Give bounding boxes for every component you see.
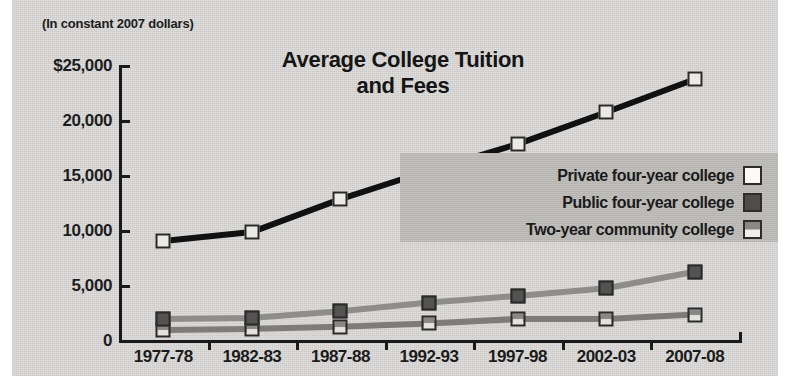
legend-item: Two-year community college — [526, 220, 762, 239]
data-point-marker — [156, 312, 171, 327]
legend-item-label: Two-year community college — [526, 221, 734, 239]
data-point-marker — [422, 316, 437, 331]
legend-item: Public four-year college — [562, 193, 762, 212]
data-point-marker — [244, 310, 259, 325]
data-point-marker — [333, 304, 348, 319]
data-point-marker — [599, 105, 614, 120]
data-point-marker — [687, 307, 702, 322]
data-point-marker — [333, 192, 348, 207]
legend-item-label: Private four-year college — [557, 167, 734, 185]
data-point-marker — [422, 295, 437, 310]
legend-item: Private four-year college — [557, 166, 762, 185]
chart-figure: (In constant 2007 dollars) Average Colle… — [0, 0, 795, 376]
data-point-marker — [599, 312, 614, 327]
data-point-marker — [599, 281, 614, 296]
data-point-marker — [156, 233, 171, 248]
data-point-marker — [510, 312, 525, 327]
legend-swatch — [743, 220, 762, 239]
legend-item-label: Public four-year college — [562, 194, 734, 212]
data-point-marker — [687, 72, 702, 87]
legend-swatch — [743, 193, 762, 212]
data-point-marker — [510, 137, 525, 152]
data-point-marker — [510, 288, 525, 303]
data-point-marker — [244, 225, 259, 240]
data-point-marker — [687, 264, 702, 279]
data-point-marker — [333, 319, 348, 334]
legend-swatch — [743, 166, 762, 185]
chart-legend: Private four-year collegePublic four-yea… — [400, 153, 778, 242]
